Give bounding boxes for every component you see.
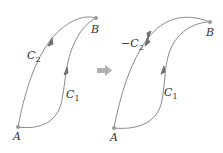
arrow-c1-icon — [161, 66, 165, 74]
point-b-marker — [94, 16, 98, 20]
curve-c2-label: C2 — [27, 49, 41, 64]
point-a-marker — [16, 125, 20, 129]
curve-neg-c2-label: −C2 — [121, 37, 144, 52]
arrow-c1-icon — [64, 67, 68, 75]
point-b-label: B — [90, 23, 99, 36]
right-arrow-icon — [97, 65, 112, 76]
point-a-label: A — [12, 130, 21, 143]
point-a-label: A — [109, 131, 118, 144]
curve-c1-label: C1 — [164, 86, 178, 101]
left-panel: A B C2 C1 — [12, 16, 99, 143]
curve-c2 — [18, 17, 96, 127]
right-panel: A B −C2 C1 — [109, 17, 214, 144]
curve-c1 — [18, 18, 96, 128]
point-a-marker — [112, 126, 116, 130]
arrow-neg-c2-head-icon — [145, 38, 150, 46]
diagram-canvas: A B C2 C1 A B −C2 C1 — [0, 0, 223, 153]
point-b-marker — [208, 20, 212, 24]
point-b-label: B — [205, 26, 214, 39]
curve-c1-label: C1 — [66, 88, 80, 103]
